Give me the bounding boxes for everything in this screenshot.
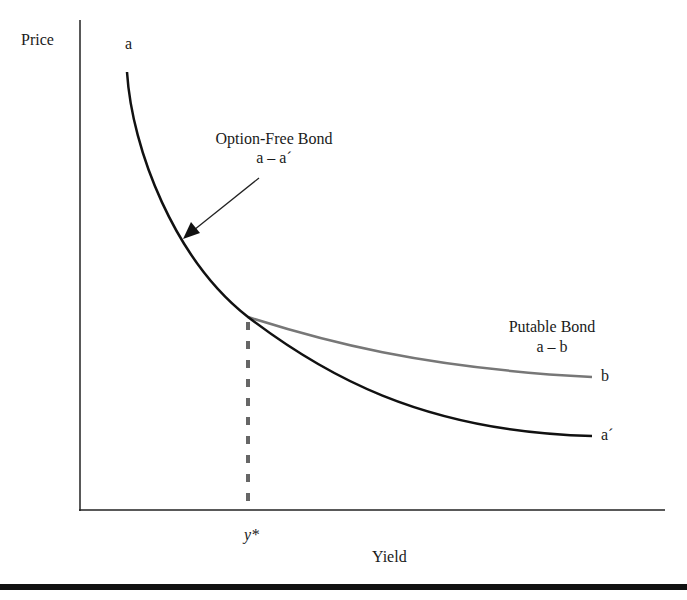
putable-sub: a – b bbox=[492, 339, 612, 355]
point-a-label: a bbox=[125, 36, 132, 52]
option-free-bond-curve bbox=[127, 72, 592, 436]
option-free-arrow-shaft bbox=[194, 178, 259, 230]
option-free-title: Option-Free Bond bbox=[204, 131, 344, 147]
putable-title: Putable Bond bbox=[492, 319, 612, 335]
arrow-head-icon bbox=[183, 222, 200, 239]
option-free-sub: a – a´ bbox=[204, 150, 344, 166]
bottom-rule bbox=[0, 584, 687, 590]
point-a-prime-label: a´ bbox=[601, 427, 613, 443]
y-star-label: y* bbox=[244, 527, 259, 543]
point-b-label: b bbox=[601, 368, 609, 384]
y-axis-label: Price bbox=[21, 32, 54, 48]
price-yield-chart bbox=[0, 0, 687, 600]
x-axis-label: Yield bbox=[372, 549, 407, 565]
